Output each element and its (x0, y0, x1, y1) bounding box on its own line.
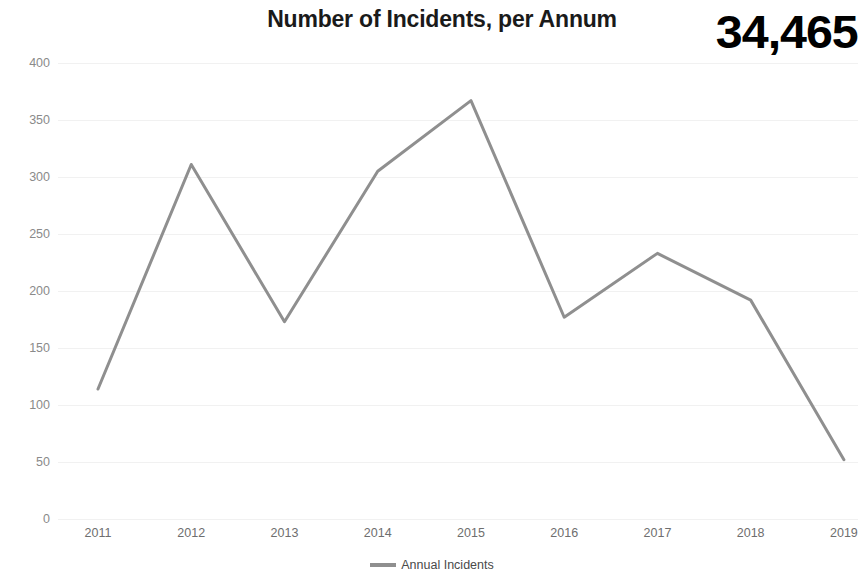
kpi-total-value: 34,465 (716, 8, 858, 55)
x-tick-label: 2019 (830, 526, 858, 540)
x-tick-label: 2012 (177, 526, 205, 540)
y-tick-label: 250 (29, 227, 50, 241)
gridline (58, 177, 858, 178)
y-tick-label: 200 (29, 284, 50, 298)
gridline (58, 291, 858, 292)
x-tick-label: 2017 (644, 526, 672, 540)
y-tick-label: 400 (29, 56, 50, 70)
x-tick-label: 2016 (550, 526, 578, 540)
y-tick-label: 50 (36, 455, 50, 469)
gridline (58, 405, 858, 406)
legend-line-swatch-icon (370, 563, 396, 567)
gridline (58, 234, 858, 235)
gridline (58, 348, 858, 349)
x-tick-label: 2014 (364, 526, 392, 540)
chart-title: Number of Incidents, per Annum (232, 6, 652, 33)
y-tick-label: 300 (29, 170, 50, 184)
x-tick-label: 2013 (271, 526, 299, 540)
gridline (58, 519, 858, 520)
gridline (58, 462, 858, 463)
gridline (58, 120, 858, 121)
chart-legend: Annual Incidents (0, 558, 864, 572)
legend-label-annual-incidents: Annual Incidents (401, 558, 493, 572)
chart-container: Number of Incidents, per Annum 34,465 40… (0, 0, 864, 588)
x-tick-label: 2011 (85, 526, 112, 540)
y-axis: 400350300250200150100500 (0, 0, 58, 588)
y-tick-label: 150 (29, 341, 50, 355)
y-tick-label: 350 (29, 113, 50, 127)
y-tick-label: 100 (29, 398, 50, 412)
x-tick-label: 2018 (737, 526, 765, 540)
gridline (58, 63, 858, 64)
x-axis: 201120122013201420152016201720182019 (0, 522, 864, 548)
plot-area (58, 63, 858, 519)
x-tick-label: 2015 (457, 526, 485, 540)
